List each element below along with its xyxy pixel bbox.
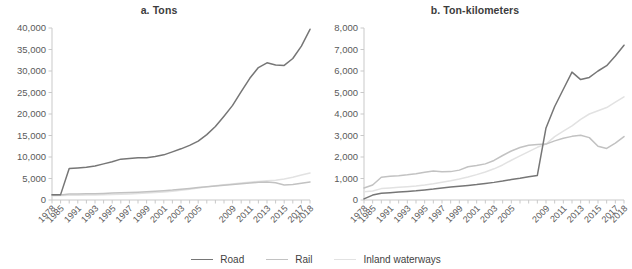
svg-text:40,000: 40,000 — [17, 22, 46, 33]
svg-text:2003: 2003 — [165, 203, 186, 224]
svg-text:7,000: 7,000 — [334, 44, 358, 55]
svg-text:2001: 2001 — [461, 203, 482, 224]
svg-text:2011: 2011 — [234, 203, 255, 224]
svg-text:2001: 2001 — [148, 203, 169, 224]
svg-text:1991: 1991 — [374, 203, 395, 224]
chart-panel-a: a. Tons 05,00010,00015,00020,00025,00030… — [0, 0, 318, 245]
svg-text:1991: 1991 — [62, 203, 83, 224]
chart-panel-b: b. Ton-kilometers 01,0002,0003,0004,0005… — [318, 0, 632, 245]
svg-text:2011: 2011 — [548, 203, 569, 224]
legend-label-road: Road — [220, 254, 244, 265]
svg-text:2015: 2015 — [582, 203, 603, 224]
svg-text:5,000: 5,000 — [22, 173, 46, 184]
panel-b-plot: 01,0002,0003,0004,0005,0006,0007,0008,00… — [318, 0, 632, 245]
svg-text:2013: 2013 — [251, 203, 272, 224]
legend-swatch-road — [191, 259, 213, 260]
svg-text:1997: 1997 — [426, 203, 447, 224]
svg-text:30,000: 30,000 — [17, 65, 46, 76]
svg-text:2,000: 2,000 — [334, 151, 358, 162]
svg-text:1993: 1993 — [392, 203, 413, 224]
svg-text:0: 0 — [41, 194, 46, 205]
legend-label-inland-waterways: Inland waterways — [363, 254, 440, 265]
svg-text:1999: 1999 — [131, 203, 152, 224]
svg-text:2005: 2005 — [496, 203, 517, 224]
svg-text:1999: 1999 — [444, 203, 465, 224]
svg-text:1,000: 1,000 — [334, 173, 358, 184]
legend-swatch-rail — [266, 259, 288, 260]
svg-text:35,000: 35,000 — [17, 44, 46, 55]
svg-text:0: 0 — [353, 194, 358, 205]
legend-item-inland-waterways: Inland waterways — [334, 254, 440, 265]
svg-text:5,000: 5,000 — [334, 87, 358, 98]
legend-item-road: Road — [191, 254, 244, 265]
svg-text:1993: 1993 — [79, 203, 100, 224]
svg-text:2013: 2013 — [565, 203, 586, 224]
svg-text:1995: 1995 — [409, 203, 430, 224]
svg-text:2005: 2005 — [182, 203, 203, 224]
svg-text:1997: 1997 — [114, 203, 135, 224]
svg-text:2009: 2009 — [217, 203, 238, 224]
svg-text:25,000: 25,000 — [17, 87, 46, 98]
svg-text:10,000: 10,000 — [17, 151, 46, 162]
svg-text:4,000: 4,000 — [334, 108, 358, 119]
figure-root: a. Tons 05,00010,00015,00020,00025,00030… — [0, 0, 632, 269]
svg-text:8,000: 8,000 — [334, 22, 358, 33]
panel-a-plot: 05,00010,00015,00020,00025,00030,00035,0… — [0, 0, 318, 245]
legend-swatch-inland-waterways — [334, 259, 356, 260]
svg-text:1995: 1995 — [96, 203, 117, 224]
svg-text:3,000: 3,000 — [334, 130, 358, 141]
svg-text:2003: 2003 — [478, 203, 499, 224]
svg-text:15,000: 15,000 — [17, 130, 46, 141]
legend-item-rail: Rail — [266, 254, 312, 265]
svg-text:6,000: 6,000 — [334, 65, 358, 76]
svg-text:2015: 2015 — [268, 203, 289, 224]
svg-text:2009: 2009 — [530, 203, 551, 224]
svg-text:20,000: 20,000 — [17, 108, 46, 119]
chart-legend: Road Rail Inland waterways — [0, 254, 632, 265]
legend-label-rail: Rail — [295, 254, 312, 265]
